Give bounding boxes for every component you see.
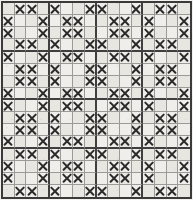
pattern-cell-marked[interactable] [132, 149, 144, 161]
pattern-cell-empty[interactable] [3, 149, 15, 161]
pattern-cell-marked[interactable] [85, 112, 97, 124]
pattern-cell-empty[interactable] [178, 112, 190, 124]
pattern-cell-empty[interactable] [85, 27, 97, 39]
pattern-cell-marked[interactable] [50, 3, 62, 15]
pattern-cell-empty[interactable] [50, 173, 62, 185]
pattern-cell-marked[interactable] [167, 112, 179, 124]
pattern-cell-marked[interactable] [97, 39, 109, 51]
pattern-cell-marked[interactable] [3, 161, 15, 173]
pattern-cell-marked[interactable] [61, 100, 73, 112]
pattern-cell-marked[interactable] [15, 112, 27, 124]
pattern-cell-marked[interactable] [61, 88, 73, 100]
pattern-cell-marked[interactable] [50, 76, 62, 88]
pattern-cell-empty[interactable] [97, 52, 109, 64]
pattern-cell-marked[interactable] [26, 76, 38, 88]
pattern-cell-empty[interactable] [143, 149, 155, 161]
pattern-cell-empty[interactable] [108, 3, 120, 15]
pattern-cell-marked[interactable] [73, 88, 85, 100]
pattern-cell-empty[interactable] [143, 76, 155, 88]
pattern-cell-empty[interactable] [3, 124, 15, 136]
pattern-cell-marked[interactable] [38, 52, 50, 64]
pattern-cell-marked[interactable] [108, 100, 120, 112]
pattern-cell-empty[interactable] [3, 64, 15, 76]
pattern-cell-empty[interactable] [85, 15, 97, 27]
pattern-cell-empty[interactable] [26, 100, 38, 112]
pattern-cell-empty[interactable] [26, 52, 38, 64]
pattern-cell-empty[interactable] [26, 15, 38, 27]
pattern-cell-marked[interactable] [73, 161, 85, 173]
pattern-cell-empty[interactable] [97, 136, 109, 148]
pattern-cell-empty[interactable] [178, 76, 190, 88]
pattern-cell-marked[interactable] [120, 88, 132, 100]
pattern-cell-empty[interactable] [178, 39, 190, 51]
pattern-cell-marked[interactable] [167, 64, 179, 76]
pattern-cell-marked[interactable] [132, 112, 144, 124]
pattern-cell-marked[interactable] [26, 39, 38, 51]
pattern-cell-marked[interactable] [38, 27, 50, 39]
pattern-cell-empty[interactable] [73, 149, 85, 161]
pattern-cell-empty[interactable] [97, 88, 109, 100]
pattern-cell-empty[interactable] [73, 185, 85, 197]
pattern-cell-empty[interactable] [38, 149, 50, 161]
pattern-cell-empty[interactable] [167, 100, 179, 112]
pattern-cell-empty[interactable] [50, 88, 62, 100]
pattern-cell-empty[interactable] [3, 112, 15, 124]
pattern-cell-marked[interactable] [108, 15, 120, 27]
pattern-cell-empty[interactable] [73, 124, 85, 136]
pattern-cell-marked[interactable] [38, 100, 50, 112]
pattern-cell-marked[interactable] [120, 136, 132, 148]
pattern-cell-empty[interactable] [50, 100, 62, 112]
pattern-cell-empty[interactable] [155, 15, 167, 27]
pattern-cell-marked[interactable] [50, 112, 62, 124]
pattern-cell-empty[interactable] [143, 39, 155, 51]
pattern-cell-marked[interactable] [73, 173, 85, 185]
pattern-cell-marked[interactable] [143, 136, 155, 148]
pattern-cell-empty[interactable] [97, 173, 109, 185]
pattern-cell-marked[interactable] [3, 27, 15, 39]
pattern-cell-empty[interactable] [120, 149, 132, 161]
pattern-cell-empty[interactable] [108, 64, 120, 76]
pattern-cell-empty[interactable] [132, 100, 144, 112]
pattern-cell-marked[interactable] [50, 64, 62, 76]
pattern-cell-empty[interactable] [85, 52, 97, 64]
pattern-cell-marked[interactable] [178, 161, 190, 173]
pattern-cell-empty[interactable] [143, 185, 155, 197]
pattern-cell-marked[interactable] [61, 173, 73, 185]
pattern-cell-empty[interactable] [61, 64, 73, 76]
pattern-cell-empty[interactable] [3, 76, 15, 88]
pattern-cell-empty[interactable] [178, 185, 190, 197]
pattern-cell-empty[interactable] [143, 124, 155, 136]
pattern-cell-empty[interactable] [132, 161, 144, 173]
pattern-cell-empty[interactable] [178, 124, 190, 136]
pattern-cell-empty[interactable] [85, 136, 97, 148]
pattern-cell-empty[interactable] [132, 52, 144, 64]
pattern-cell-marked[interactable] [120, 27, 132, 39]
pattern-cell-empty[interactable] [167, 173, 179, 185]
pattern-cell-empty[interactable] [61, 185, 73, 197]
pattern-cell-empty[interactable] [50, 15, 62, 27]
pattern-cell-marked[interactable] [178, 52, 190, 64]
pattern-cell-marked[interactable] [38, 88, 50, 100]
pattern-cell-empty[interactable] [97, 100, 109, 112]
pattern-cell-marked[interactable] [85, 185, 97, 197]
pattern-cell-marked[interactable] [155, 39, 167, 51]
pattern-cell-empty[interactable] [143, 64, 155, 76]
pattern-cell-marked[interactable] [85, 149, 97, 161]
pattern-cell-empty[interactable] [26, 161, 38, 173]
pattern-cell-empty[interactable] [143, 3, 155, 15]
pattern-cell-marked[interactable] [73, 100, 85, 112]
pattern-cell-marked[interactable] [73, 15, 85, 27]
pattern-cell-empty[interactable] [38, 76, 50, 88]
pattern-cell-marked[interactable] [26, 112, 38, 124]
pattern-cell-marked[interactable] [85, 124, 97, 136]
pattern-cell-empty[interactable] [26, 88, 38, 100]
pattern-cell-marked[interactable] [15, 76, 27, 88]
pattern-cell-empty[interactable] [3, 3, 15, 15]
pattern-cell-empty[interactable] [61, 149, 73, 161]
pattern-cell-empty[interactable] [97, 15, 109, 27]
pattern-cell-marked[interactable] [97, 3, 109, 15]
pattern-cell-empty[interactable] [15, 161, 27, 173]
pattern-cell-empty[interactable] [97, 161, 109, 173]
pattern-cell-marked[interactable] [97, 185, 109, 197]
pattern-cell-marked[interactable] [155, 124, 167, 136]
